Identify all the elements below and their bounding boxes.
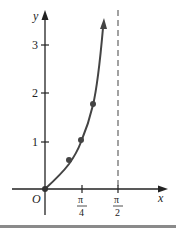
x-tick-label-pi-4: π 4 (77, 194, 87, 218)
denominator-2: 2 (115, 207, 120, 218)
pi-numerator: π (114, 194, 119, 205)
y-tick-label-3: 3 (32, 38, 38, 52)
bottom-border (0, 225, 176, 228)
pi-numerator: π (78, 194, 83, 205)
curve-arrow-icon (100, 18, 107, 29)
y-tick-label-1: 1 (32, 135, 38, 149)
tan-graph: y x O 1 2 3 π 4 π 2 (0, 0, 176, 228)
denominator-4: 4 (79, 207, 84, 218)
y-axis (42, 10, 49, 215)
y-axis-arrow-icon (42, 10, 49, 20)
y-tick-label-2: 2 (32, 86, 38, 100)
origin-label: O (32, 192, 41, 206)
x-tick-label-pi-2: π 2 (113, 194, 123, 218)
tan-curve (45, 28, 103, 189)
y-axis-label: y (32, 9, 39, 23)
marked-points (42, 101, 96, 192)
x-axis-label: x (157, 191, 164, 205)
